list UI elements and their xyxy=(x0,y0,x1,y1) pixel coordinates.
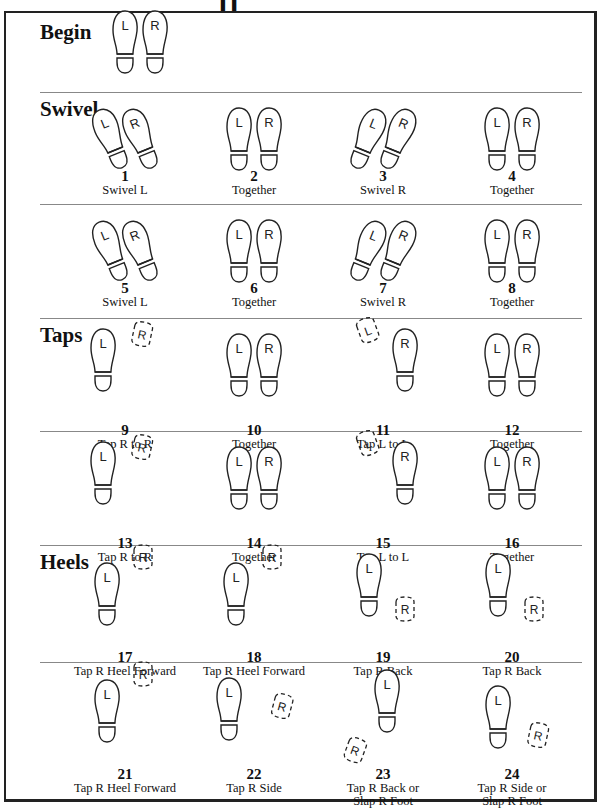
svg-text:R: R xyxy=(136,327,148,343)
tap-foot-icon: R xyxy=(343,736,368,765)
foot-icon: R xyxy=(393,442,417,504)
foot-icon: R xyxy=(257,108,281,170)
svg-text:L: L xyxy=(99,336,106,351)
svg-text:L: L xyxy=(103,687,110,702)
step-4: L R4Together xyxy=(442,97,582,197)
svg-text:R: R xyxy=(264,454,273,469)
step-11: R L11Tap L to L xyxy=(313,323,453,451)
step-caption: Tap R Heel Forward xyxy=(55,782,195,795)
svg-text:R: R xyxy=(522,454,531,469)
step-1: L R1Swivel L xyxy=(55,97,195,197)
svg-text:L: L xyxy=(493,454,500,469)
feet-diagram: L R xyxy=(313,550,453,650)
foot-icon: L xyxy=(375,670,399,732)
step-10: L R10Together xyxy=(184,323,324,451)
foot-icon: L xyxy=(113,11,137,73)
feet-diagram: L R xyxy=(184,436,324,536)
step-5: L R5Swivel L xyxy=(55,209,195,309)
svg-text:R: R xyxy=(400,336,409,351)
foot-icon: L xyxy=(227,220,251,282)
svg-text:L: L xyxy=(235,454,242,469)
step-14: L R14Together xyxy=(184,436,324,564)
step-7: L R7Swivel R xyxy=(313,209,453,309)
foot-icon: L xyxy=(485,220,509,282)
step-20: L R20Tap R Back xyxy=(442,550,582,678)
step-8: L R8Together xyxy=(442,209,582,309)
svg-text:R: R xyxy=(268,551,277,565)
svg-text:L: L xyxy=(232,570,239,585)
foot-icon: L xyxy=(485,108,509,170)
svg-text:R: R xyxy=(276,699,288,715)
feet-diagram: L R xyxy=(184,550,324,650)
feet-diagram: L R xyxy=(184,323,324,423)
tap-foot-icon: R xyxy=(131,433,154,460)
step-2: L R2Together xyxy=(184,97,324,197)
foot-icon: L xyxy=(95,680,119,742)
step-16: L R16Together xyxy=(442,436,582,564)
feet-diagram: L R xyxy=(313,97,453,169)
tap-foot-icon: R xyxy=(270,692,294,720)
foot-icon: L xyxy=(91,442,115,504)
step-21: L R21Tap R Heel Forward xyxy=(55,667,195,795)
foot-icon: L xyxy=(486,554,510,616)
step-17: L R17Tap R Heel Forward xyxy=(55,550,195,678)
step-22: L R22Tap R Side xyxy=(184,667,324,795)
svg-text:L: L xyxy=(493,115,500,130)
feet-diagram: L R xyxy=(442,667,582,767)
svg-text:R: R xyxy=(136,440,148,456)
svg-text:L: L xyxy=(493,227,500,242)
svg-text:L: L xyxy=(235,341,242,356)
step-caption: Slap R Foot xyxy=(442,795,582,808)
svg-text:R: R xyxy=(264,341,273,356)
svg-text:R: R xyxy=(522,115,531,130)
step-13: L R13Tap R to R xyxy=(55,436,195,564)
feet-diagram: L R xyxy=(55,209,195,281)
foot-icon: R xyxy=(515,334,539,396)
foot-icon: R xyxy=(257,447,281,509)
foot-icon: L xyxy=(224,563,248,625)
feet-diagram: L R xyxy=(55,97,195,169)
foot-icon: L xyxy=(486,686,510,748)
foot-icon: L xyxy=(485,447,509,509)
foot-icon: L xyxy=(485,334,509,396)
step-9: L R9Tap R to R xyxy=(55,323,195,451)
step-12: L R12Together xyxy=(442,323,582,451)
foot-icon: L xyxy=(217,678,241,740)
feet-diagram: L R xyxy=(55,667,195,767)
svg-text:R: R xyxy=(532,728,544,744)
foot-icon: L xyxy=(91,329,115,391)
svg-text:L: L xyxy=(365,561,372,576)
foot-icon: R xyxy=(515,447,539,509)
svg-text:R: R xyxy=(400,449,409,464)
step-19: L R19Tap R Back xyxy=(313,550,453,678)
svg-text:R: R xyxy=(139,668,148,682)
foot-icon: R xyxy=(257,220,281,282)
tap-foot-icon: R xyxy=(527,721,550,748)
foot-icon: R xyxy=(515,220,539,282)
svg-text:L: L xyxy=(383,677,390,692)
feet-diagram: L R xyxy=(55,323,195,423)
svg-text:R: R xyxy=(150,18,159,33)
feet-diagram: L R xyxy=(313,209,453,281)
step-15: R L15Tap L to L xyxy=(313,436,453,564)
svg-text:L: L xyxy=(103,570,110,585)
svg-text:L: L xyxy=(494,561,501,576)
feet-diagram: L R xyxy=(442,436,582,536)
step-caption: Slap R Foot xyxy=(313,795,453,808)
svg-text:L: L xyxy=(235,115,242,130)
feet-diagram: L R xyxy=(184,97,324,169)
feet-diagram: L R xyxy=(55,436,195,536)
feet-diagram: L R xyxy=(442,209,582,281)
tap-foot-icon: R xyxy=(525,597,543,621)
svg-text:L: L xyxy=(362,436,373,452)
foot-icon: R xyxy=(393,329,417,391)
svg-text:L: L xyxy=(121,18,128,33)
feet-diagram: L R xyxy=(55,550,195,650)
svg-text:R: R xyxy=(139,551,148,565)
step-caption: Tap R Side xyxy=(184,782,324,795)
svg-text:L: L xyxy=(362,323,373,339)
foot-icon: L xyxy=(227,334,251,396)
foot-icon: L xyxy=(357,554,381,616)
svg-text:L: L xyxy=(225,685,232,700)
svg-text:R: R xyxy=(522,227,531,242)
